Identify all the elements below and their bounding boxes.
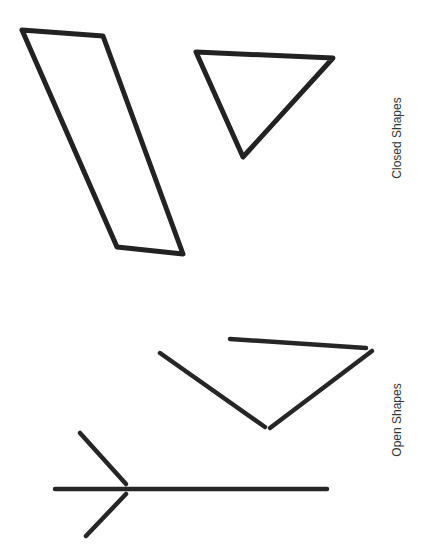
- stick-segment: [230, 339, 366, 348]
- stick-segment: [86, 494, 126, 536]
- closed-triangle-shape: [196, 52, 333, 157]
- closed-parallelogram-shape: [22, 30, 183, 254]
- open-v-shape: [160, 339, 372, 428]
- stick-segment: [80, 433, 126, 484]
- closed-shapes-label: Closed Shapes: [390, 97, 404, 178]
- stick-segment: [160, 353, 265, 427]
- stick-segment: [270, 351, 372, 428]
- open-shapes-group: [55, 339, 372, 536]
- closed-shapes-group: [22, 30, 333, 254]
- shapes-diagram: [0, 0, 421, 557]
- open-arrow-shape: [55, 433, 327, 536]
- open-shapes-label: Open Shapes: [390, 383, 404, 456]
